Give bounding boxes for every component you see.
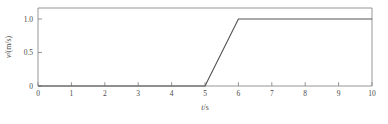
y-tick-label-0: 0 — [29, 82, 33, 91]
plot-frame — [38, 8, 372, 86]
frame-border — [38, 8, 372, 86]
x-tick-label-8: 8 — [303, 89, 307, 98]
y-tick-label-0-5: 0.5 — [24, 48, 34, 57]
x-tick-label-0: 0 — [36, 89, 40, 98]
x-tick-label-9: 9 — [337, 89, 341, 98]
x-tick-labels: 0 1 2 3 4 5 6 7 8 9 10 — [36, 89, 376, 98]
data-line-v — [38, 19, 372, 86]
x-tick-label-7: 7 — [270, 89, 274, 98]
x-tick-label-6: 6 — [237, 89, 241, 98]
data-series-v — [38, 19, 372, 86]
x-axis-title: t/s — [201, 103, 208, 112]
x-tick-label-3: 3 — [136, 89, 140, 98]
x-tick-label-4: 4 — [170, 89, 174, 98]
x-tick-label-10: 10 — [368, 89, 376, 98]
x-tick-label-2: 2 — [103, 89, 107, 98]
y-tick-label-1-0: 1.0 — [24, 15, 34, 24]
y-axis-title-unit: /(m/s) — [4, 36, 13, 55]
x-axis-title-unit: /s — [203, 103, 208, 112]
x-tick-label-5: 5 — [203, 89, 207, 98]
velocity-time-chart-figure: 0 1 2 3 4 5 6 7 8 9 10 0 0.5 1.0 t/s v/(… — [0, 0, 388, 124]
x-tick-label-1: 1 — [70, 89, 74, 98]
velocity-time-chart: 0 1 2 3 4 5 6 7 8 9 10 0 0.5 1.0 t/s v/(… — [0, 0, 388, 124]
y-axis-title: v/(m/s) — [4, 36, 13, 58]
y-axis-ticks — [38, 19, 42, 86]
y-tick-labels: 0 0.5 1.0 — [24, 15, 34, 91]
